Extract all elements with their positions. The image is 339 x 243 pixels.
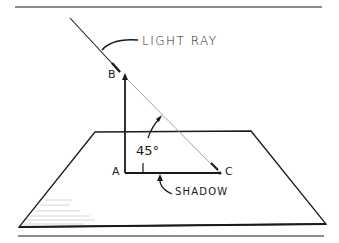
arrow-b-icon xyxy=(122,73,128,80)
light-ray-leader xyxy=(102,40,138,50)
point-b-label: B xyxy=(108,69,116,80)
point-c-label: C xyxy=(225,166,233,177)
ray-c-arrowhead xyxy=(211,163,218,170)
angle-label: 45° xyxy=(136,144,159,157)
light-ray-label: LIGHT RAY xyxy=(142,35,218,47)
ground-plane xyxy=(19,131,326,227)
shadow-label: SHADOW xyxy=(175,187,228,197)
point-a-label: A xyxy=(112,166,120,177)
point-c-dot xyxy=(219,172,222,175)
shadow-arrow-icon xyxy=(157,174,163,181)
